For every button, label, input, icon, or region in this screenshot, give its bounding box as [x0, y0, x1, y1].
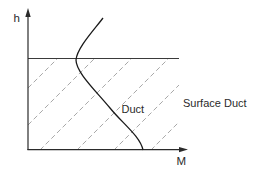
duct-label: Duct [122, 103, 145, 115]
surface-duct-label: Surface Duct [183, 97, 247, 109]
m-profile-curve [76, 18, 143, 150]
y-axis-arrow-icon [25, 8, 30, 17]
surface-duct-diagram: h M Duct Surface Duct [0, 0, 259, 181]
hatch-line [28, 58, 95, 125]
hatch-line [151, 122, 179, 150]
y-axis-label: h [14, 12, 20, 24]
x-axis-arrow-icon [179, 147, 188, 152]
hatch-line [28, 58, 58, 88]
duct-hatching [28, 58, 179, 150]
hatch-line [40, 58, 132, 150]
hatch-line [114, 85, 179, 150]
x-axis-label: M [177, 155, 187, 167]
